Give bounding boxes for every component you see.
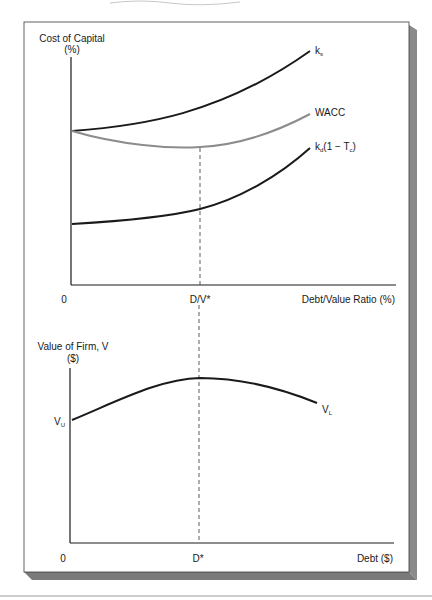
top-optimum-label: D/V* bbox=[190, 294, 211, 305]
bottom-origin-label: 0 bbox=[60, 553, 66, 564]
bottom-ylabel-line2: ($) bbox=[67, 353, 79, 364]
top-origin-label: 0 bbox=[61, 294, 67, 305]
bottom-ylabel-line1: Value of Firm, V bbox=[38, 341, 109, 352]
bottom-optimum-label: D* bbox=[192, 553, 203, 564]
frame-shadow-bottom bbox=[24, 572, 417, 580]
bottom-x-axis-label: Debt ($) bbox=[357, 553, 393, 564]
wacc-label: WACC bbox=[315, 107, 345, 118]
top-ylabel-line1: Cost of Capital bbox=[39, 33, 105, 44]
frame-shadow-right bbox=[409, 25, 417, 580]
top-ylabel-line2: (%) bbox=[64, 44, 80, 55]
figure-canvas: Cost of Capital (%) ks WACC kd(1 − Tc) 0… bbox=[0, 0, 432, 600]
scan-artifact bbox=[110, 1, 240, 5]
top-x-axis-label: Debt/Value Ratio (%) bbox=[302, 294, 395, 305]
